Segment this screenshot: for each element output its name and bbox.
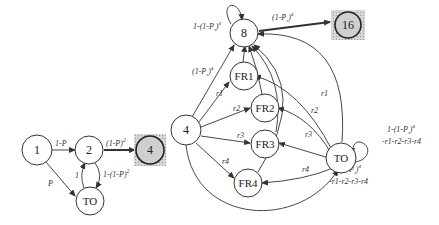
node-2-label: 2 [86, 143, 92, 157]
node-TO-label: TO [83, 195, 98, 207]
edge-label-8-16: (1-Ps)4 [272, 12, 294, 23]
edge-label-TO-FR1: r1 [321, 89, 328, 98]
edge-label-TO-FR2: r2 [311, 106, 318, 115]
edge-label-TO-FR4: r4 [302, 165, 309, 174]
edge-TO-to-2 [82, 163, 85, 188]
edge-FR1-to-8 [243, 46, 245, 62]
edge-label-4-TO-line2: -r1-r2-r3-r4 [329, 177, 368, 186]
edge-label-TO-FR3: r3 [305, 130, 312, 139]
node-FR2-label: FR2 [256, 102, 275, 114]
edge-label-TO-self-line2: -r1-r2-r3-r4 [382, 137, 421, 146]
edge-4-to-FR1 [199, 82, 229, 122]
edge-label-2-4: (1-P)2 [106, 137, 126, 148]
node-1-label: 1 [34, 143, 40, 157]
edge-label-4-FR4: r4 [222, 157, 229, 166]
edge-TO-to-8 [258, 34, 343, 142]
edge-label-TO-2: 1 [75, 171, 79, 180]
edge-label-8-self: 1-(1-Ps)4 [193, 21, 222, 32]
node-16-label: 16 [342, 18, 354, 32]
edge-4-to-FR2 [201, 108, 250, 127]
edge-4-to-8 [192, 45, 234, 117]
state-transition-diagram: 1-P P (1-P)2 1-(1-P)2 1 1 2 4 TO 1-(1-Ps… [0, 0, 439, 225]
left-diagram: 1-P P (1-P)2 1-(1-P)2 1 1 2 4 TO [22, 134, 166, 215]
edge-label-4-FR3: r3 [237, 131, 244, 140]
node-FR4-label: FR4 [239, 177, 258, 189]
node-FR1-label: FR1 [235, 70, 254, 82]
edge-TO-to-FR3 [279, 143, 329, 158]
node-4-label: 4 [147, 143, 153, 157]
edge-label-1-TO: P [47, 179, 53, 188]
edge-label-4-8: (1-Ps)4 [192, 66, 214, 77]
node-TO-label: TO [334, 152, 349, 164]
edge-label-4-FR1: r1 [216, 89, 223, 98]
edge-label-TO-self: 1-(1-Ps)4 [387, 124, 416, 135]
node-FR3-label: FR3 [256, 138, 275, 150]
edge-label-4-FR2: r2 [233, 104, 240, 113]
node-4-label: 4 [183, 123, 189, 137]
edge-label-2-TO: 1-(1-P)2 [103, 168, 130, 179]
edge-label-1-2: 1-P [55, 139, 67, 148]
edge-TO-to-FR4 [262, 168, 333, 183]
edge-8-to-16 [259, 22, 330, 31]
right-diagram: 1-(1-Ps)4 (1-Ps)4 (1-Ps)4 r1 r2 r3 r4 r1… [171, 5, 421, 210]
edge-2-to-TO [95, 163, 100, 188]
node-8-label: 8 [241, 26, 247, 40]
